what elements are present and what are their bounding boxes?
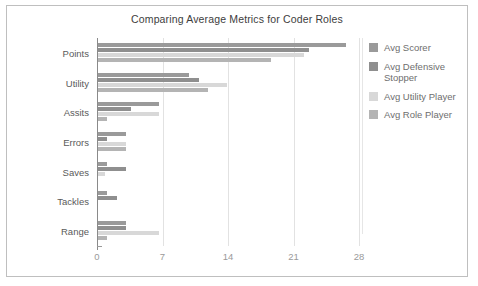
chart-title: Comparing Average Metrics for Coder Role… bbox=[7, 13, 467, 25]
category-label: Points bbox=[63, 47, 89, 58]
bar bbox=[98, 191, 107, 195]
bar-group: Saves bbox=[98, 162, 359, 182]
bar bbox=[98, 132, 126, 136]
x-tick-label: 14 bbox=[223, 251, 234, 262]
legend-swatch-icon bbox=[369, 110, 378, 119]
bar bbox=[98, 88, 208, 92]
bar bbox=[98, 78, 199, 82]
legend-label: Avg Utility Player bbox=[384, 91, 456, 103]
category-label: Utility bbox=[66, 77, 89, 88]
legend-item[interactable]: Avg Defensive Stopper bbox=[369, 61, 463, 84]
axis-origin-tick bbox=[97, 246, 102, 247]
legend-divider bbox=[362, 38, 363, 234]
legend-item[interactable]: Avg Role Player bbox=[369, 109, 463, 121]
bar bbox=[98, 226, 126, 230]
bar bbox=[98, 112, 159, 116]
bar bbox=[98, 83, 227, 87]
bar bbox=[98, 231, 159, 235]
legend-label: Avg Scorer bbox=[384, 42, 431, 54]
x-tick-label: 28 bbox=[354, 251, 365, 262]
bar bbox=[98, 43, 346, 47]
bar-group: Range bbox=[98, 221, 359, 241]
x-tick-label: 7 bbox=[160, 251, 165, 262]
chart-container: Comparing Average Metrics for Coder Role… bbox=[6, 5, 468, 277]
bar bbox=[98, 236, 107, 240]
bar bbox=[98, 53, 304, 57]
category-label: Assits bbox=[64, 107, 89, 118]
bar bbox=[98, 167, 126, 171]
legend-label: Avg Role Player bbox=[384, 109, 452, 121]
category-label: Saves bbox=[63, 166, 89, 177]
bar-group: Points bbox=[98, 43, 359, 63]
legend-swatch-icon bbox=[369, 62, 378, 71]
bar bbox=[98, 172, 105, 176]
chart-legend: Avg ScorerAvg Defensive StopperAvg Utili… bbox=[369, 42, 463, 128]
legend-swatch-icon bbox=[369, 92, 378, 101]
legend-item[interactable]: Avg Utility Player bbox=[369, 91, 463, 103]
x-tick-label: 0 bbox=[94, 251, 99, 262]
category-label: Range bbox=[61, 226, 89, 237]
bar bbox=[98, 107, 131, 111]
bar bbox=[98, 142, 126, 146]
legend-swatch-icon bbox=[369, 43, 378, 52]
bar bbox=[98, 137, 107, 141]
x-tick-label: 21 bbox=[288, 251, 299, 262]
legend-item[interactable]: Avg Scorer bbox=[369, 42, 463, 54]
bar-group: Errors bbox=[98, 132, 359, 152]
bar-group: Tackles bbox=[98, 191, 359, 211]
bar bbox=[98, 117, 107, 121]
bar bbox=[98, 48, 309, 52]
legend-label: Avg Defensive Stopper bbox=[384, 61, 463, 84]
bar bbox=[98, 196, 117, 200]
bar bbox=[98, 147, 126, 151]
category-label: Errors bbox=[63, 137, 89, 148]
bar-group: Utility bbox=[98, 73, 359, 93]
gridline bbox=[359, 38, 360, 246]
bar bbox=[98, 102, 159, 106]
bar bbox=[98, 58, 271, 62]
bar bbox=[98, 162, 107, 166]
bar-group: Assits bbox=[98, 102, 359, 122]
plot-area: PointsUtilityAssitsErrorsSavesTacklesRan… bbox=[97, 38, 359, 246]
category-label: Tackles bbox=[57, 196, 89, 207]
bar bbox=[98, 73, 189, 77]
bar bbox=[98, 221, 126, 225]
